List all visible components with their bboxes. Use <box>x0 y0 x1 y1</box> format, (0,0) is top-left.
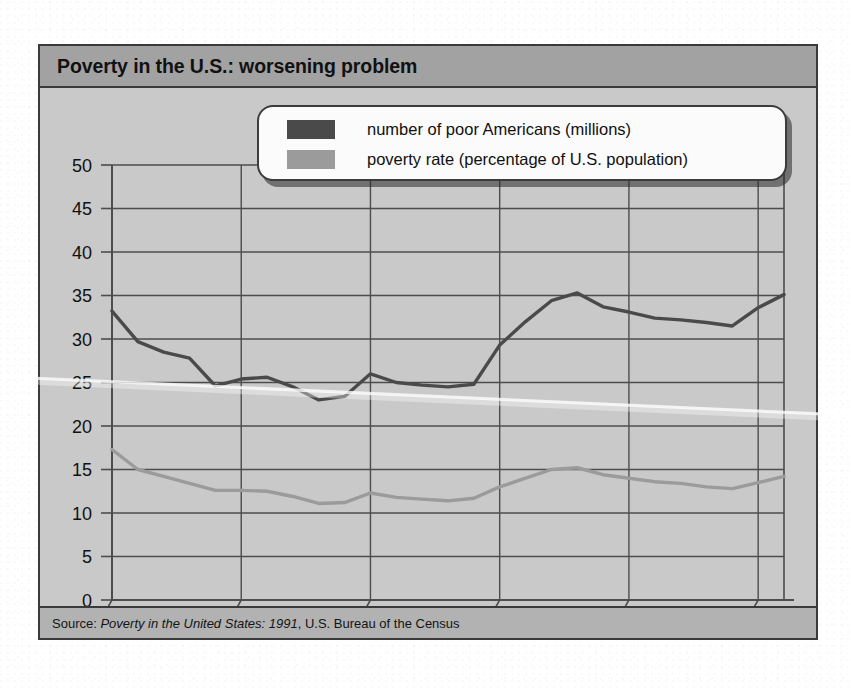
series-line-poor-americans <box>112 293 784 400</box>
y-tick-label: 40 <box>72 243 92 263</box>
y-tick-label: 30 <box>72 330 92 350</box>
poverty-chart-figure: Poverty in the U.S.: worsening problem 0… <box>0 0 851 688</box>
legend-swatch-light <box>287 150 335 169</box>
y-tick-label: 50 <box>72 156 92 176</box>
y-tick-label: 45 <box>72 199 92 219</box>
y-tick-label: 15 <box>72 460 92 480</box>
chart-title: Poverty in the U.S.: worsening problem <box>57 55 417 78</box>
chart-title-bar: Poverty in the U.S.: worsening problem <box>40 46 816 88</box>
series-line-poverty-rate <box>112 449 784 503</box>
chart-legend: number of poor Americans (millions) pove… <box>257 105 787 181</box>
legend-item-poor-americans: number of poor Americans (millions) <box>259 114 785 144</box>
chart-panel: Poverty in the U.S.: worsening problem 0… <box>38 44 818 640</box>
legend-item-poverty-rate: poverty rate (percentage of U.S. populat… <box>259 144 785 174</box>
chart-source: Source: Poverty in the United States: 19… <box>52 616 460 631</box>
y-tick-label: 5 <box>82 547 92 567</box>
data-series-layer <box>112 293 784 504</box>
source-suffix: , U.S. Bureau of the Census <box>298 616 460 631</box>
source-prefix: Source: <box>52 616 100 631</box>
y-tick-label: 10 <box>72 504 92 524</box>
y-tick-label: 25 <box>72 373 92 393</box>
y-tick-label: 20 <box>72 417 92 437</box>
legend-swatch-dark <box>287 120 335 139</box>
y-axis-ticks <box>101 165 112 600</box>
legend-label-poverty-rate: poverty rate (percentage of U.S. populat… <box>367 150 688 169</box>
legend-label-poor-americans: number of poor Americans (millions) <box>367 120 631 139</box>
y-axis-labels: 05101520253035404550 <box>72 156 92 609</box>
chart-source-bar: Source: Poverty in the United States: 19… <box>40 606 816 638</box>
y-tick-label: 35 <box>72 286 92 306</box>
source-title-italic: Poverty in the United States: 1991 <box>100 616 297 631</box>
